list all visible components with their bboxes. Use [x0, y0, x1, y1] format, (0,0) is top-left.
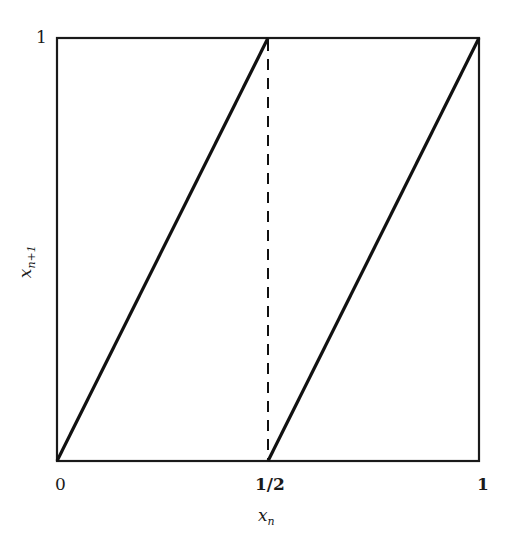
x-tick-1: 1: [477, 474, 489, 494]
x-tick-half: 1/2: [255, 474, 285, 494]
y-axis-label: xn+1: [15, 245, 38, 278]
x-axis-label-sub: n: [268, 515, 275, 528]
y-axis-label-main: x: [15, 269, 35, 279]
y-axis-label-sub: n+1: [25, 245, 38, 268]
branch-2-line: [268, 38, 479, 461]
x-axis-label-main: x: [258, 505, 268, 525]
x-tick-0: 0: [55, 474, 66, 494]
y-tick-1: 1: [36, 27, 47, 47]
plot-area: [0, 0, 509, 545]
branch-1-line: [57, 38, 268, 461]
x-axis-label: xn: [258, 505, 275, 528]
